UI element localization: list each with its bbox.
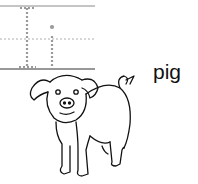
trace-letter-l [19,8,36,67]
pig-illustration [20,66,142,184]
word-label: pig [153,61,181,82]
handwriting-guidelines [0,0,96,72]
trace-letter-i [51,26,53,68]
